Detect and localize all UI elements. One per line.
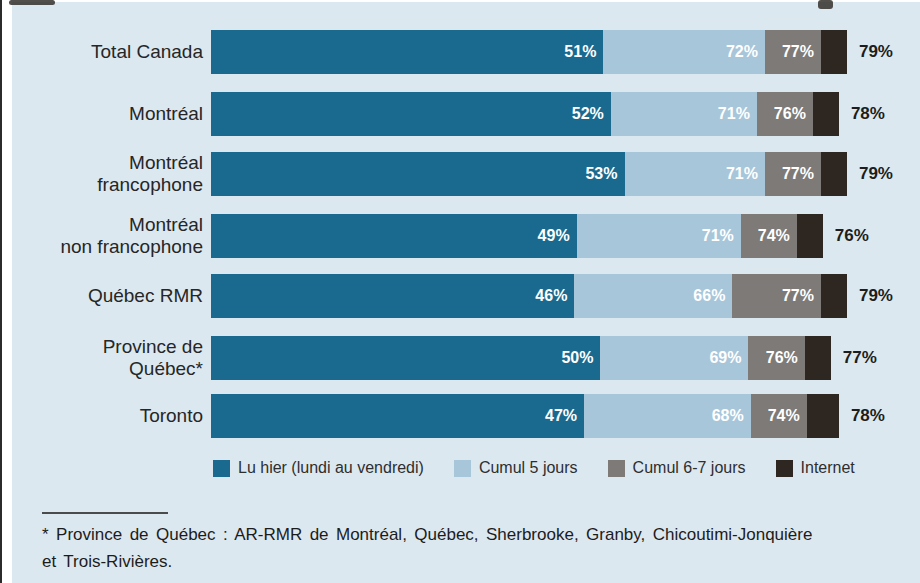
stacked-bar: 49%71%74% xyxy=(211,214,823,258)
bar-total-label: 79% xyxy=(859,42,893,62)
segment-value-label: 71% xyxy=(726,165,758,183)
segment-value-label: 66% xyxy=(693,287,725,305)
legend-swatch-cumul-5-jours xyxy=(454,460,471,477)
scanned-page: Total Canada51%72%77%79%Montréal52%71%76… xyxy=(0,0,920,583)
bar-segment: 68% xyxy=(584,394,751,438)
segment-value-label: 53% xyxy=(585,165,617,183)
segment-value-label: 46% xyxy=(535,287,567,305)
chart-row: Montréal non francophone49%71%74%76% xyxy=(0,214,920,258)
bar-segment: 49% xyxy=(211,214,577,258)
chart-row: Toronto47%68%74%78% xyxy=(0,394,920,438)
category-label: Montréal non francophone xyxy=(0,214,203,258)
category-label: Province de Québec* xyxy=(0,336,203,380)
segment-value-label: 72% xyxy=(726,43,758,61)
bar-segment: 51% xyxy=(211,30,603,74)
bar-segment: 77% xyxy=(765,152,821,196)
footnote-rule xyxy=(42,512,168,514)
bar-total-label: 79% xyxy=(859,164,893,184)
bar-segment: 47% xyxy=(211,394,584,438)
stacked-bar: 53%71%77% xyxy=(211,152,847,196)
stacked-bar: 47%68%74% xyxy=(211,394,839,438)
legend-item-internet: Internet xyxy=(776,459,855,477)
legend-swatch-lu-hier xyxy=(213,460,230,477)
segment-value-label: 51% xyxy=(564,43,596,61)
bar-segment: 50% xyxy=(211,336,600,380)
segment-value-label: 71% xyxy=(702,227,734,245)
bar-segment: 74% xyxy=(751,394,807,438)
stacked-bar: 46%66%77% xyxy=(211,274,847,318)
footnote: * Province de Québec : AR-RMR de Montréa… xyxy=(42,521,907,575)
segment-value-label: 47% xyxy=(545,407,577,425)
bar-segment: 69% xyxy=(600,336,748,380)
segment-value-label: 69% xyxy=(709,349,741,367)
stacked-bar: 50%69%76% xyxy=(211,336,831,380)
legend-swatch-internet xyxy=(776,460,793,477)
bar-segment: 66% xyxy=(574,274,732,318)
legend-item-cumul-6-7-jours: Cumul 6-7 jours xyxy=(608,459,746,477)
bar-segment: 77% xyxy=(765,30,821,74)
bar-segment: 53% xyxy=(211,152,625,196)
bar-segment: 74% xyxy=(741,214,797,258)
category-label: Québec RMR xyxy=(0,285,203,307)
chart-row: Montréal francophone53%71%77%79% xyxy=(0,152,920,196)
bar-total-label: 78% xyxy=(851,406,885,426)
legend-item-lu-hier: Lu hier (lundi au vendredi) xyxy=(213,459,424,477)
bar-segment xyxy=(807,394,839,438)
segment-value-label: 52% xyxy=(572,105,604,123)
bar-total-label: 76% xyxy=(835,226,869,246)
bar-total-label: 77% xyxy=(843,348,877,368)
segment-value-label: 77% xyxy=(782,165,814,183)
segment-value-label: 49% xyxy=(538,227,570,245)
legend-label: Internet xyxy=(801,459,855,477)
segment-value-label: 71% xyxy=(718,105,750,123)
segment-value-label: 68% xyxy=(712,407,744,425)
bar-segment xyxy=(821,30,847,74)
segment-value-label: 74% xyxy=(758,227,790,245)
bar-segment xyxy=(813,92,839,136)
scan-artifact xyxy=(818,0,833,9)
bar-segment: 76% xyxy=(757,92,813,136)
chart-row: Total Canada51%72%77%79% xyxy=(0,30,920,74)
bar-segment: 71% xyxy=(625,152,765,196)
legend-label: Lu hier (lundi au vendredi) xyxy=(238,459,424,477)
bar-segment xyxy=(797,214,823,258)
bar-segment: 76% xyxy=(748,336,804,380)
segment-value-label: 77% xyxy=(782,43,814,61)
chart-row: Québec RMR46%66%77%79% xyxy=(0,274,920,318)
segment-value-label: 77% xyxy=(782,287,814,305)
stacked-bar: 52%71%76% xyxy=(211,92,839,136)
category-label: Montréal francophone xyxy=(0,152,203,196)
chart-row: Province de Québec*50%69%76%77% xyxy=(0,336,920,380)
legend-label: Cumul 6-7 jours xyxy=(633,459,746,477)
footnote-line-1: * Province de Québec : AR-RMR de Montréa… xyxy=(42,521,907,548)
legend-item-cumul-5-jours: Cumul 5 jours xyxy=(454,459,578,477)
category-label: Toronto xyxy=(0,405,203,427)
bar-segment: 77% xyxy=(732,274,821,318)
category-label: Total Canada xyxy=(0,41,203,63)
segment-value-label: 76% xyxy=(766,349,798,367)
stacked-bar: 51%72%77% xyxy=(211,30,847,74)
bar-segment xyxy=(821,274,847,318)
segment-value-label: 76% xyxy=(774,105,806,123)
bar-total-label: 78% xyxy=(851,104,885,124)
legend-label: Cumul 5 jours xyxy=(479,459,578,477)
bar-segment: 52% xyxy=(211,92,611,136)
bar-segment: 71% xyxy=(577,214,741,258)
chart-row: Montréal52%71%76%78% xyxy=(0,92,920,136)
bar-segment: 72% xyxy=(603,30,765,74)
bar-total-label: 79% xyxy=(859,286,893,306)
segment-value-label: 74% xyxy=(768,407,800,425)
footnote-line-2: et Trois-Rivières. xyxy=(42,548,907,575)
segment-value-label: 50% xyxy=(561,349,593,367)
bar-segment xyxy=(805,336,831,380)
bar-segment: 71% xyxy=(611,92,757,136)
bar-segment xyxy=(821,152,847,196)
chart-legend: Lu hier (lundi au vendredi) Cumul 5 jour… xyxy=(213,457,855,479)
bar-segment: 46% xyxy=(211,274,574,318)
category-label: Montréal xyxy=(0,103,203,125)
scan-artifact xyxy=(9,0,55,5)
legend-swatch-cumul-6-7-jours xyxy=(608,460,625,477)
